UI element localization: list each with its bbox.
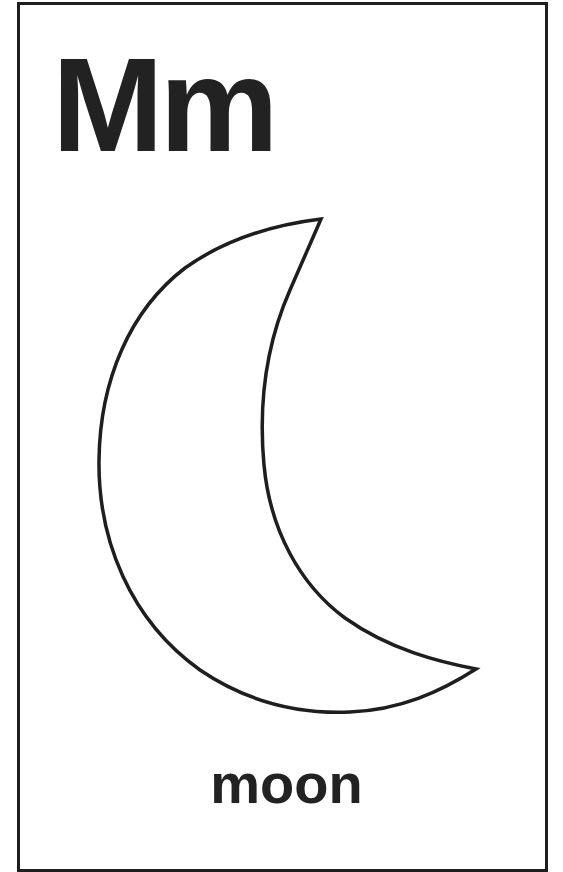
word-label: moon	[0, 744, 563, 824]
